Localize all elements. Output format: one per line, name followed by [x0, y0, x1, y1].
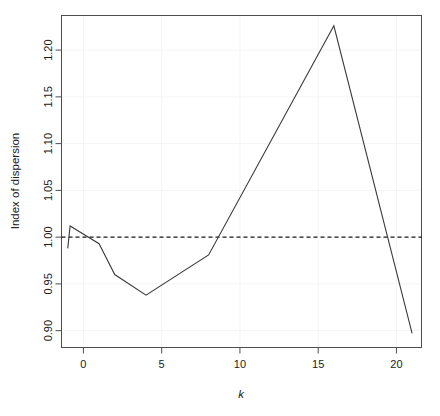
- y-tick-label: 1.05: [42, 180, 54, 201]
- x-tick-label: 20: [390, 358, 402, 370]
- x-tick-label: 10: [234, 358, 246, 370]
- y-axis-title: Index of dispersion: [9, 133, 21, 230]
- plot-background: [0, 0, 440, 416]
- y-tick-label: 0.95: [42, 273, 54, 294]
- x-tick-label: 15: [312, 358, 324, 370]
- y-tick-label: 1.15: [42, 86, 54, 107]
- index-of-dispersion-plot: 0.900.951.001.051.101.151.20 05101520 In…: [0, 0, 440, 416]
- x-tick-label: 5: [159, 358, 165, 370]
- x-tick-label: 0: [80, 358, 86, 370]
- y-tick-label: 1.00: [42, 226, 54, 247]
- y-tick-label: 1.10: [42, 133, 54, 154]
- y-tick-label: 1.20: [42, 39, 54, 60]
- y-tick-label: 0.90: [42, 320, 54, 341]
- chart-figure: 0.900.951.001.051.101.151.20 05101520 In…: [0, 0, 440, 416]
